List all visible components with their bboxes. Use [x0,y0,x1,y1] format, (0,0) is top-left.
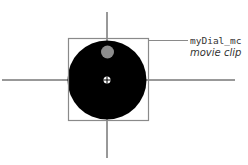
dial-diagram [0,0,248,165]
instance-name-label: myDial_mc [190,35,241,47]
registration-point-icon [104,77,111,84]
indicator-dot [101,46,114,59]
symbol-type-label: movie clip [190,47,241,59]
